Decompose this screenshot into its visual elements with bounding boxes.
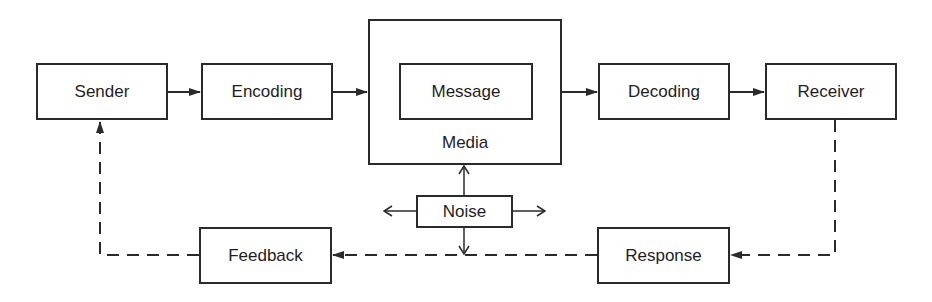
sender-label: Sender	[75, 82, 130, 102]
encoding-node: Encoding	[201, 63, 333, 120]
sender-node: Sender	[36, 63, 168, 120]
response-label: Response	[625, 246, 702, 266]
feedback-node: Feedback	[199, 227, 332, 284]
noise-node: Noise	[416, 195, 513, 228]
encoding-label: Encoding	[232, 82, 303, 102]
response-node: Response	[597, 227, 730, 284]
dashed-feedback-sender	[100, 122, 199, 255]
receiver-label: Receiver	[797, 82, 864, 102]
decoding-label: Decoding	[628, 82, 700, 102]
media-label: Media	[442, 133, 488, 153]
feedback-label: Feedback	[228, 246, 303, 266]
message-node: Message	[399, 63, 533, 120]
message-label: Message	[432, 82, 501, 102]
dashed-receiver-response	[731, 120, 835, 255]
receiver-node: Receiver	[765, 63, 897, 120]
decoding-node: Decoding	[598, 63, 730, 120]
noise-label: Noise	[443, 202, 486, 222]
